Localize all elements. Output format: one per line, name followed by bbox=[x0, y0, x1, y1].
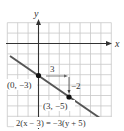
y-axis-label: y bbox=[33, 8, 39, 19]
rise-label: −2 bbox=[71, 81, 81, 91]
run-label: 3 bbox=[50, 64, 55, 74]
equation-label: 2(x − 3) = −3(y + 5) bbox=[16, 118, 86, 128]
point-label-1: (0, −3) bbox=[7, 80, 32, 90]
point-3-neg5 bbox=[66, 94, 71, 99]
point-label-2: (3, −5) bbox=[43, 101, 68, 111]
y-axis-arrow-icon bbox=[36, 19, 41, 25]
graph-line bbox=[10, 56, 110, 125]
x-axis-label: x bbox=[114, 38, 120, 49]
grid-lines bbox=[7, 23, 111, 127]
point-0-neg3 bbox=[36, 73, 41, 78]
coordinate-plane: x y 3 −2 (0, −3) (3, −5) 2(x − 3) = −3(y… bbox=[0, 0, 124, 131]
